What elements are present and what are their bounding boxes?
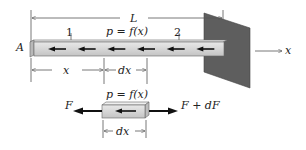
distributed-load-label: p = f(x)	[106, 25, 148, 38]
x-axis-label: x	[285, 44, 292, 57]
force-left-label: F	[64, 99, 73, 112]
element-dx-label: dx	[116, 125, 130, 138]
end-point-label: A	[15, 41, 24, 54]
diagram-canvas: L 1 2 p = f(x) A x x dx p = f(x) F F + d…	[0, 0, 306, 150]
force-left-arrow	[73, 108, 102, 115]
bar-end-face	[30, 40, 34, 57]
force-right-label: F + dF	[180, 99, 220, 112]
element-top-face	[102, 102, 149, 105]
force-right-arrow	[149, 108, 178, 115]
element-side-face	[145, 102, 149, 118]
element-load-label: p = f(x)	[106, 88, 148, 101]
length-label: L	[129, 12, 137, 25]
section-2-label: 2	[174, 26, 181, 39]
section-1-label: 1	[66, 26, 73, 39]
increment-label: dx	[118, 64, 132, 77]
position-label: x	[63, 64, 70, 77]
